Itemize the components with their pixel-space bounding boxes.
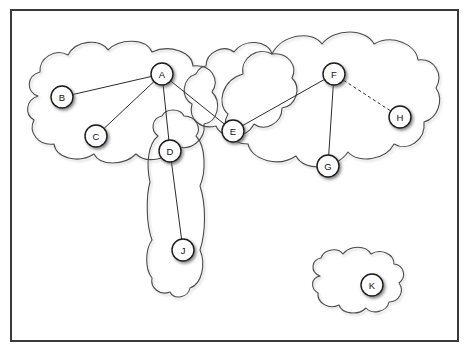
node-circle-A[interactable]	[151, 63, 173, 85]
node-B[interactable]: B	[51, 86, 73, 108]
node-circle-E[interactable]	[222, 120, 244, 142]
node-J[interactable]: J	[172, 239, 194, 261]
node-D[interactable]: D	[159, 140, 181, 162]
node-H[interactable]: H	[389, 106, 411, 128]
node-circle-G[interactable]	[317, 155, 339, 177]
node-circle-D[interactable]	[159, 140, 181, 162]
network-diagram: A B C D E F	[0, 0, 469, 350]
node-circle-K[interactable]	[361, 274, 383, 296]
node-circle-B[interactable]	[51, 86, 73, 108]
node-F[interactable]: F	[323, 63, 345, 85]
vertical-cloud[interactable]	[147, 110, 205, 297]
node-E[interactable]: E	[222, 120, 244, 142]
node-K[interactable]: K	[361, 274, 383, 296]
node-A[interactable]: A	[151, 63, 173, 85]
node-C[interactable]: C	[85, 125, 107, 147]
node-circle-J[interactable]	[172, 239, 194, 261]
node-circle-F[interactable]	[323, 63, 345, 85]
diagram-canvas: A B C D E F	[0, 0, 469, 350]
node-circle-C[interactable]	[85, 125, 107, 147]
node-G[interactable]: G	[317, 155, 339, 177]
node-circle-H[interactable]	[389, 106, 411, 128]
